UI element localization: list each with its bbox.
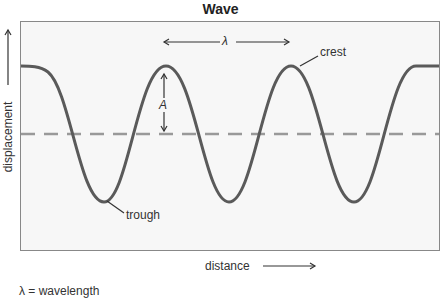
amplitude-label: A bbox=[159, 98, 167, 112]
wave-diagram bbox=[0, 0, 441, 303]
trough-label: trough bbox=[126, 208, 160, 222]
wavelength-label: λ bbox=[222, 34, 228, 48]
legend: λ = wavelength bbox=[19, 284, 99, 298]
plot-box bbox=[21, 22, 440, 251]
crest-label: crest bbox=[320, 45, 346, 59]
y-axis-label: displacement bbox=[1, 87, 15, 187]
x-axis-label: distance bbox=[205, 259, 250, 273]
